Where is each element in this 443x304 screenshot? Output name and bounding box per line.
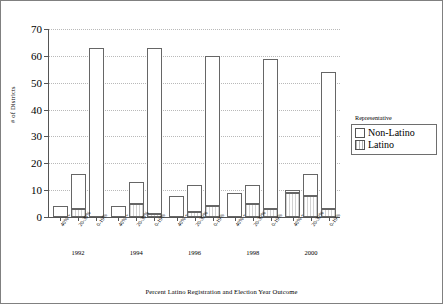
bar-group-1992: 431363 (53, 29, 104, 217)
bar-segment-non-latino[interactable] (147, 48, 162, 215)
bar-segment-non-latino[interactable] (245, 185, 260, 204)
x-axis-group-label-1996: 1996 (165, 249, 223, 257)
y-axis-tick (44, 136, 49, 137)
bar-segment-non-latino[interactable] (263, 59, 278, 209)
bar-segment-non-latino[interactable] (89, 48, 104, 217)
chart-figure: # of Districts 01020304050607043136340% … (0, 0, 443, 304)
bar-segment-non-latino[interactable] (205, 56, 220, 206)
y-axis-tick (44, 83, 49, 84)
y-axis-tick-label: 30 (31, 131, 42, 142)
open-square-icon (355, 128, 365, 138)
bar-group-1998: 957356 (227, 29, 278, 217)
legend-title: Representative (351, 114, 437, 121)
bar-group-2000: 9188351 (285, 29, 336, 217)
bar-group-1994: 458162 (111, 29, 162, 217)
y-axis-tick-label: 70 (31, 24, 42, 35)
y-axis-tick-label: 60 (31, 50, 42, 61)
legend-item-latino[interactable]: Latino (355, 139, 433, 151)
y-axis-tick (44, 217, 49, 218)
y-axis-title: # of Districts (9, 86, 16, 123)
legend-item-non-latino[interactable]: Non-Latino (355, 127, 433, 139)
x-axis-title: Percent Latino Registration and Election… (1, 288, 442, 295)
bar-segment-non-latino[interactable] (321, 72, 336, 209)
hatched-square-icon (355, 140, 365, 150)
y-axis-tick (44, 56, 49, 57)
y-axis-tick (44, 163, 49, 164)
y-axis-tick (44, 190, 49, 191)
x-axis-group-label-1998: 1998 (224, 249, 282, 257)
x-axis-group-label-2000: 2000 (282, 249, 340, 257)
bar-segment-non-latino[interactable] (71, 174, 86, 209)
legend: Representative Non-Latino Latino (351, 114, 437, 155)
bar-group-1996: 8210456 (169, 29, 220, 217)
bar-segment-non-latino[interactable] (303, 174, 318, 195)
x-axis-group-label-1994: 1994 (107, 249, 165, 257)
bar-segment-non-latino[interactable] (285, 190, 300, 193)
y-axis-tick (44, 29, 49, 30)
bar-segment-non-latino[interactable] (129, 182, 144, 203)
y-axis-tick-label: 40 (31, 104, 42, 115)
plot-area: 01020304050607043136340% +20-39%0-19%199… (48, 29, 340, 218)
legend-item-label: Non-Latino (368, 127, 415, 139)
bar-segment-non-latino[interactable] (187, 185, 202, 212)
y-axis-tick-label: 50 (31, 77, 42, 88)
x-axis-group-label-1992: 1992 (49, 249, 107, 257)
y-axis-tick (44, 110, 49, 111)
legend-item-label: Latino (368, 139, 394, 151)
y-axis-tick-label: 10 (31, 185, 42, 196)
y-axis-tick-label: 20 (31, 158, 42, 169)
legend-box: Non-Latino Latino (351, 124, 437, 155)
y-axis-tick-label: 0 (37, 212, 43, 223)
